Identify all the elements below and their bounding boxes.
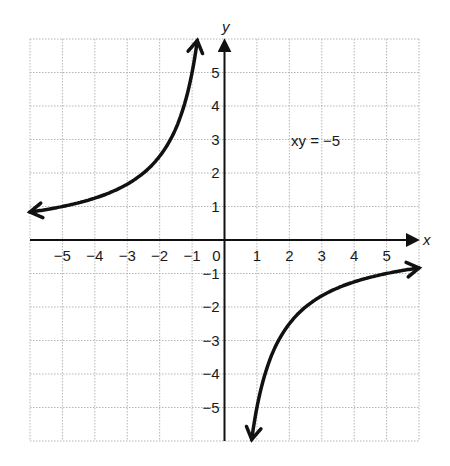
x-tick-label: 0 (212, 247, 220, 264)
x-tick-label: −1 (184, 247, 201, 264)
y-tick-label: 2 (211, 164, 219, 181)
x-tick-label: 3 (318, 247, 326, 264)
y-tick-label: −5 (202, 399, 219, 416)
y-tick-label: 3 (211, 131, 219, 148)
axes (30, 41, 417, 441)
y-tick-label: −4 (202, 365, 219, 382)
hyperbola-chart: −5−4−3−2−101234554321−1−2−3−4−5 x y xy =… (0, 0, 450, 466)
x-tick-label: 4 (350, 247, 358, 264)
branch-quadrant-iv (252, 268, 419, 440)
y-axis-label: y (221, 18, 231, 35)
y-tick-label: 1 (211, 198, 219, 215)
x-tick-label: −5 (54, 247, 71, 264)
y-tick-label: 4 (211, 97, 219, 114)
x-tick-label: 5 (382, 247, 390, 264)
x-tick-label: −2 (151, 247, 168, 264)
equation-label: xy = −5 (291, 132, 340, 149)
y-tick-label: −2 (202, 298, 219, 315)
y-tick-label: −1 (202, 265, 219, 282)
x-tick-label: −4 (86, 247, 103, 264)
x-axis-label: x (422, 231, 431, 248)
x-tick-label: −3 (119, 247, 136, 264)
x-tick-label: 1 (253, 247, 261, 264)
y-tick-label: −3 (202, 332, 219, 349)
branch-quadrant-ii (30, 41, 197, 213)
y-tick-label: 5 (211, 64, 219, 81)
x-tick-label: 2 (285, 247, 293, 264)
